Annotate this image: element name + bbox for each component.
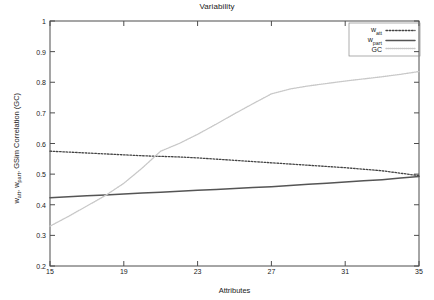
chart-figure: Variability watt, wpart, GSim Correlatio… — [0, 0, 434, 300]
plot-border — [50, 21, 419, 266]
legend-sample-lines — [386, 31, 415, 49]
series-line-GC — [50, 72, 419, 227]
series-line-w_part — [50, 177, 419, 198]
x-tick-marks — [50, 21, 419, 266]
legend-border — [349, 23, 420, 56]
plot-frame — [50, 21, 419, 266]
data-series-group — [50, 72, 419, 227]
plot-canvas — [0, 0, 434, 300]
y-tick-marks — [50, 21, 419, 266]
series-line-w_att — [50, 151, 419, 176]
